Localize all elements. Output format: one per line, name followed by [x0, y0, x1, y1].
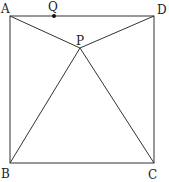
label-q: Q — [48, 0, 58, 14]
label-d: D — [157, 3, 167, 17]
label-b: B — [1, 167, 10, 181]
segment-ap — [10, 16, 80, 48]
point-q-dot — [52, 14, 56, 18]
segment-bp — [10, 48, 80, 163]
segment-dp — [80, 16, 154, 48]
label-c: C — [148, 168, 157, 182]
geometry-diagram: A Q D P B C — [0, 0, 169, 182]
segment-cp — [80, 48, 154, 163]
label-a: A — [0, 2, 10, 16]
label-p: P — [76, 34, 84, 48]
